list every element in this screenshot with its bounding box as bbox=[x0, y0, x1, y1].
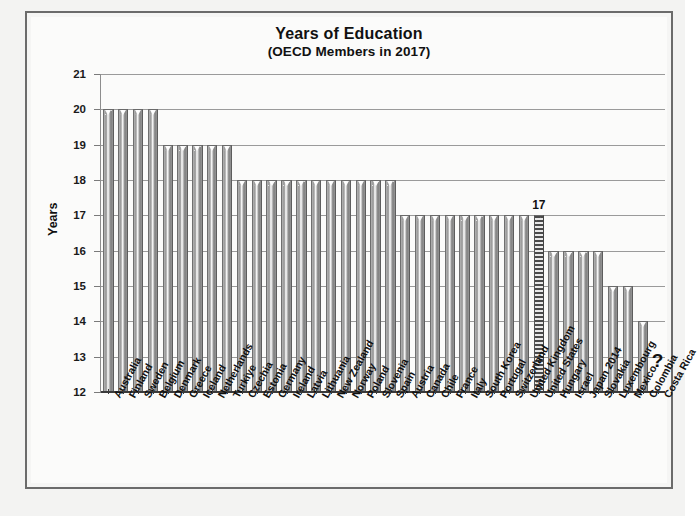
x-axis-tick bbox=[197, 389, 198, 394]
bar-notch bbox=[165, 146, 171, 151]
bar-notch bbox=[476, 216, 482, 221]
gridline bbox=[101, 109, 665, 110]
y-axis-tick-label: 16 bbox=[60, 245, 86, 257]
bar-notch bbox=[328, 181, 334, 186]
bar-notch bbox=[521, 216, 527, 221]
bar bbox=[252, 180, 262, 392]
bar-notch bbox=[432, 216, 438, 221]
x-axis-tick bbox=[153, 389, 154, 394]
x-axis-tick bbox=[628, 389, 629, 394]
x-axis-tick bbox=[450, 389, 451, 394]
y-axis-line bbox=[100, 74, 101, 392]
y-axis-tick-label: 13 bbox=[60, 351, 86, 363]
x-axis-tick bbox=[242, 389, 243, 394]
bar-notch bbox=[120, 110, 126, 115]
bar-notch bbox=[640, 322, 646, 327]
x-axis-tick bbox=[376, 389, 377, 394]
x-axis-tick bbox=[420, 389, 421, 394]
x-axis-tick bbox=[494, 389, 495, 394]
x-axis-tick bbox=[316, 389, 317, 394]
x-axis-tick bbox=[123, 389, 124, 394]
bar-notch bbox=[625, 287, 631, 292]
y-axis-tick-label: 21 bbox=[60, 68, 86, 80]
bar-top-highlight bbox=[535, 216, 543, 222]
x-axis-tick bbox=[272, 389, 273, 394]
bar bbox=[385, 180, 395, 392]
bar-notch bbox=[387, 181, 393, 186]
x-axis-tick bbox=[227, 389, 228, 394]
bar-notch bbox=[402, 216, 408, 221]
bar-value-label: 17 bbox=[532, 198, 545, 212]
bar bbox=[370, 180, 380, 392]
bar-notch bbox=[105, 110, 111, 115]
x-axis-tick bbox=[212, 389, 213, 394]
bar-notch bbox=[491, 216, 497, 221]
bar bbox=[148, 109, 158, 392]
bar-notch bbox=[194, 146, 200, 151]
x-axis-tick bbox=[108, 389, 109, 394]
bar-notch bbox=[150, 110, 156, 115]
bar bbox=[222, 145, 232, 392]
bar-notch bbox=[358, 181, 364, 186]
bar bbox=[311, 180, 321, 392]
bar bbox=[474, 215, 484, 392]
x-axis-tick bbox=[539, 389, 540, 394]
x-axis-tick bbox=[583, 389, 584, 394]
bar bbox=[207, 145, 217, 392]
x-axis-tick bbox=[509, 389, 510, 394]
y-axis-tick-label: 14 bbox=[60, 315, 86, 327]
x-axis-tick bbox=[658, 389, 659, 394]
x-axis-tick bbox=[346, 389, 347, 394]
x-axis-tick bbox=[301, 389, 302, 394]
x-axis-tick bbox=[465, 389, 466, 394]
bar-notch bbox=[284, 181, 290, 186]
x-axis-tick bbox=[598, 389, 599, 394]
bar-notch bbox=[506, 216, 512, 221]
y-axis-tick-label: 19 bbox=[60, 139, 86, 151]
y-axis-tick-label: 12 bbox=[60, 386, 86, 398]
bar bbox=[281, 180, 291, 392]
x-axis-tick bbox=[479, 389, 480, 394]
bar-notch bbox=[313, 181, 319, 186]
y-axis-tick-label: 15 bbox=[60, 280, 86, 292]
x-axis-tick bbox=[554, 389, 555, 394]
bar bbox=[326, 180, 336, 392]
bar-notch bbox=[610, 287, 616, 292]
bar-notch bbox=[580, 252, 586, 257]
x-axis-tick bbox=[613, 389, 614, 394]
bar-notch bbox=[298, 181, 304, 186]
bar-notch bbox=[551, 252, 557, 257]
gridline bbox=[101, 74, 665, 75]
bar bbox=[133, 109, 143, 392]
y-axis-tick-label: 18 bbox=[60, 174, 86, 186]
x-axis-tick bbox=[524, 389, 525, 394]
x-axis-tick bbox=[390, 389, 391, 394]
y-axis-title: Years bbox=[46, 203, 60, 236]
x-axis-tick bbox=[361, 389, 362, 394]
bar-notch bbox=[180, 146, 186, 151]
x-axis-tick bbox=[168, 389, 169, 394]
x-axis-tick bbox=[138, 389, 139, 394]
x-axis-tick bbox=[435, 389, 436, 394]
bar bbox=[163, 145, 173, 392]
bar-notch bbox=[566, 252, 572, 257]
bar-notch bbox=[462, 216, 468, 221]
bar-notch bbox=[343, 181, 349, 186]
x-axis-tick bbox=[643, 389, 644, 394]
bar-notch bbox=[254, 181, 260, 186]
bar-notch bbox=[239, 181, 245, 186]
bar-notch bbox=[595, 252, 601, 257]
bar-notch bbox=[269, 181, 275, 186]
x-axis-tick bbox=[183, 389, 184, 394]
y-axis-tick-label: 20 bbox=[60, 103, 86, 115]
bar bbox=[103, 109, 113, 392]
x-axis-tick bbox=[257, 389, 258, 394]
x-axis-tick-labels: AustraliaFinlandSwedenBelgiumDenmarkGree… bbox=[101, 394, 665, 494]
bar-notch bbox=[224, 146, 230, 151]
bar bbox=[118, 109, 128, 392]
x-axis-tick bbox=[331, 389, 332, 394]
x-axis-tick bbox=[569, 389, 570, 394]
y-axis-tick-label: 17 bbox=[60, 209, 86, 221]
bar-notch bbox=[447, 216, 453, 221]
